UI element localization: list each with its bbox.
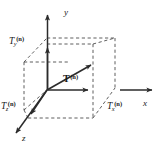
x-axis-label: x — [143, 99, 147, 108]
tx-component-label: Tx(n) — [107, 101, 122, 112]
cube-edge-diagonal-top-right — [93, 38, 115, 44]
cube-edge-diagonal-top-left — [24, 38, 47, 62]
traction-vector-figure: y x z Ty(n) Tz(n) Tx(n) T(n) — [0, 0, 164, 149]
ty-superscript: (n) — [16, 35, 24, 42]
traction-vector-label: T(n) — [63, 74, 78, 84]
tz-superscript: (n) — [8, 100, 16, 107]
traction-components — [31, 48, 88, 114]
tz-component-label: Tz(n) — [1, 101, 16, 112]
coordinate-axes — [16, 15, 152, 133]
y-axis-label: y — [64, 8, 68, 17]
z-axis-label: z — [22, 134, 26, 143]
diagram-canvas — [0, 0, 164, 149]
tx-superscript: (n) — [114, 100, 122, 107]
traction-vector-base: T — [63, 73, 70, 84]
ty-component-label: Ty(n) — [9, 36, 24, 47]
traction-vector-superscript: (n) — [70, 73, 78, 80]
